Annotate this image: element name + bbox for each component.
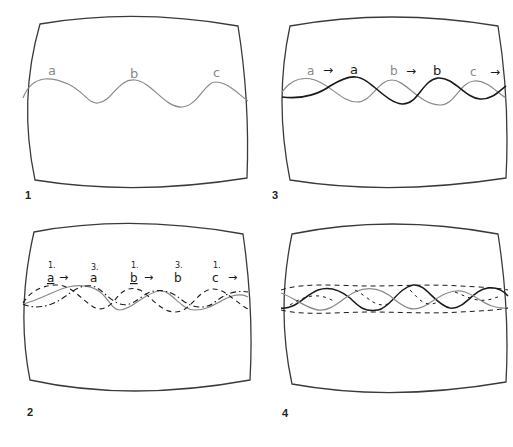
label-c-gray: c [470, 65, 477, 79]
panel-number: 4 [282, 407, 288, 419]
dashed-wave [281, 285, 508, 290]
panel-number: 3 [272, 189, 278, 201]
panel-1-screen: a b c [0, 0, 260, 215]
panel-2: 1. a → 3. a 1. b → 3. b 1. c → 2 [0, 220, 260, 447]
panel-3-screen: a → a b → b c → [260, 0, 513, 215]
index-label: 1. [48, 261, 56, 270]
label-a-3: a [90, 271, 97, 285]
arrow-icon: → [228, 271, 237, 284]
arrow-icon: → [59, 271, 68, 284]
panel-number: 2 [27, 406, 33, 418]
panel-number: 1 [25, 189, 31, 201]
label-a-1: a [47, 271, 54, 285]
label-b-1: b [130, 271, 138, 285]
tv-screen-outline [284, 224, 507, 393]
label-b: b [130, 66, 138, 81]
gray-wave [23, 79, 248, 107]
panel-4: 4 [260, 220, 513, 447]
label-c: c [213, 65, 220, 80]
dashed-wave [23, 285, 248, 312]
panel-2-screen: 1. a → 3. a 1. b → 3. b 1. c → [0, 220, 260, 447]
arrow-icon: → [490, 65, 500, 79]
index-label: 3. [175, 261, 183, 270]
tv-screen-outline [28, 16, 248, 187]
arrow-icon: → [323, 63, 333, 77]
panel-1: a b c 1 [0, 0, 260, 215]
label-c-1: c [212, 271, 219, 285]
label-b-gray: b [390, 64, 398, 78]
panel-4-screen [260, 220, 513, 447]
label-b-3: b [174, 271, 182, 285]
arrow-icon: → [144, 271, 153, 284]
black-wave [281, 285, 508, 311]
label-a-gray: a [307, 64, 314, 78]
label-b-black: b [433, 63, 441, 78]
index-label: 1. [213, 261, 221, 270]
arrow-icon: → [406, 64, 416, 78]
label-a: a [48, 63, 56, 78]
label-a-black: a [350, 62, 358, 77]
tv-screen-outline [24, 223, 251, 391]
panel-3: a → a b → b c → 3 [260, 0, 513, 215]
index-label: 1. [131, 261, 139, 270]
